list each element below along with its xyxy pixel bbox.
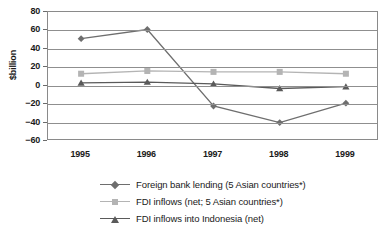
data-point-marker	[211, 69, 217, 75]
y-tick-label: −20	[4, 98, 40, 108]
data-point-marker	[78, 35, 85, 42]
legend-item-1[interactable]: Foreign bank lending (5 Asian countries*…	[100, 176, 380, 193]
data-point-marker	[78, 71, 84, 77]
legend-label: FDI inflows into Indonesia (net)	[136, 213, 264, 224]
y-tick-label: 60	[4, 24, 40, 34]
y-tick-mark	[43, 48, 47, 49]
y-tick-label: 0	[4, 80, 40, 90]
gridline	[48, 123, 377, 124]
y-tick-label: 20	[4, 61, 40, 71]
chart-legend: Foreign bank lending (5 Asian countries*…	[100, 176, 380, 227]
gridline	[48, 86, 377, 87]
gridline	[48, 49, 377, 50]
x-tick-label: 1995	[70, 149, 89, 159]
y-tick-label: 40	[4, 43, 40, 53]
legend-item-3[interactable]: FDI inflows into Indonesia (net)	[100, 210, 380, 227]
y-tick-label: 80	[4, 6, 40, 16]
legend-marker	[112, 199, 118, 205]
y-tick-mark	[43, 122, 47, 123]
legend-marker	[111, 180, 119, 188]
y-tick-mark	[43, 85, 47, 86]
y-tick-mark	[43, 11, 47, 12]
x-tick-label: 1997	[203, 149, 222, 159]
data-point-marker	[277, 69, 283, 75]
legend-triangle-icon	[100, 213, 130, 225]
gridline	[48, 30, 377, 31]
gridline	[48, 67, 377, 68]
gridline	[48, 104, 377, 105]
y-tick-mark	[43, 140, 47, 141]
data-point-marker	[343, 71, 349, 77]
legend-square-icon	[100, 196, 130, 208]
legend-label: Foreign bank lending (5 Asian countries*…	[136, 179, 306, 190]
legend-marker	[111, 216, 119, 223]
x-tick-label: 1998	[269, 149, 288, 159]
plot-area	[47, 11, 378, 140]
y-tick-label: −40	[4, 117, 40, 127]
y-tick-mark	[43, 29, 47, 30]
chart-figure: $billion 806040200−20−40−60 199519961997…	[0, 0, 386, 233]
x-tick-label: 1999	[335, 149, 354, 159]
x-tick-label: 1996	[137, 149, 156, 159]
y-tick-mark	[43, 103, 47, 104]
data-point-marker	[144, 68, 150, 74]
y-tick-mark	[43, 66, 47, 67]
y-tick-label: −60	[4, 135, 40, 145]
legend-diamond-icon	[100, 179, 130, 191]
legend-label: FDI inflows (net; 5 Asian countries*)	[136, 196, 283, 207]
legend-item-2[interactable]: FDI inflows (net; 5 Asian countries*)	[100, 193, 380, 210]
